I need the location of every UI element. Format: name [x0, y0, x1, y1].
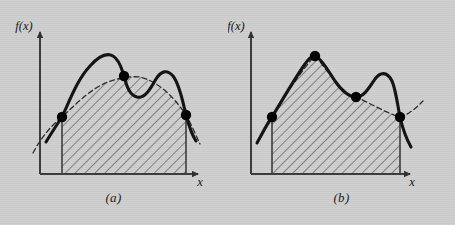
marked-point-b-1 — [310, 51, 320, 61]
y-axis-label-b: f(x) — [228, 19, 245, 33]
figure-panel-pair: f(x) x (a) — [0, 0, 455, 225]
marked-point-a-0 — [57, 112, 67, 122]
panel-a-caption: (a) — [0, 190, 227, 206]
x-axis-label-b: x — [408, 175, 415, 189]
panel-a-plot: f(x) x — [0, 0, 227, 190]
shaded-region-a — [62, 77, 186, 174]
y-axis-label-a: f(x) — [15, 19, 32, 33]
x-axis-label-a: x — [196, 175, 203, 189]
panel-a: f(x) x (a) — [0, 0, 227, 225]
marked-point-b-0 — [267, 112, 277, 122]
panel-b: f(x) x (b) — [228, 0, 455, 225]
marked-point-b-2 — [351, 92, 361, 102]
panel-b-caption: (b) — [228, 190, 455, 206]
panel-b-plot: f(x) x — [228, 0, 455, 190]
marked-point-a-2 — [181, 110, 191, 120]
marked-point-a-1 — [119, 71, 129, 81]
marked-point-b-3 — [395, 112, 405, 122]
